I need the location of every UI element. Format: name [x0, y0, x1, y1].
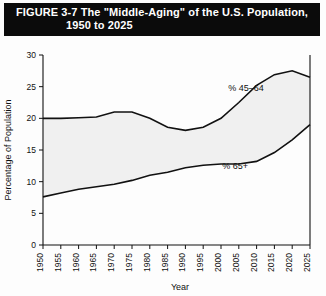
x-tick-label: 1950: [35, 253, 45, 272]
figure-title-banner: FIGURE 3-7 The "Middle-Aging" of the U.S…: [4, 3, 320, 36]
x-tick-label: 1985: [160, 253, 170, 272]
x-tick-group: 1950195519601965197019751980198519901995…: [35, 245, 312, 272]
x-tick-label: 1990: [177, 253, 187, 272]
figure-title-line-1: FIGURE 3-7 The "Middle-Aging" of the U.S…: [10, 6, 314, 19]
x-tick-label: 2005: [231, 253, 241, 272]
figure-title-line-2: 1950 to 2025: [10, 19, 314, 32]
y-tick-label: 15: [27, 145, 37, 155]
x-tick-label: 2010: [249, 253, 259, 272]
y-tick-label: 30: [27, 50, 37, 60]
x-tick-label: 2000: [213, 253, 223, 272]
x-tick-label: 2020: [284, 253, 294, 272]
y-tick-group: 051015202530: [27, 50, 43, 250]
area-band-45-64: [43, 71, 310, 197]
y-tick-label: 20: [27, 113, 37, 123]
y-tick-label: 25: [27, 82, 37, 92]
x-tick-label: 2025: [302, 253, 312, 272]
x-tick-label: 1955: [53, 253, 63, 272]
x-tick-label: 1970: [106, 253, 116, 272]
y-tick-label: 0: [31, 240, 36, 250]
x-axis-title: Year: [171, 282, 189, 292]
chart-plot-area: 1950195519601965197019751980198519901995…: [0, 40, 326, 296]
x-tick-label: 1965: [88, 253, 98, 272]
y-tick-label: 5: [31, 208, 36, 218]
x-tick-label: 1995: [195, 253, 205, 272]
x-tick-label: 1975: [124, 253, 134, 272]
area-fill-group: [43, 71, 310, 197]
x-tick-label: 1980: [142, 253, 152, 272]
y-axis-title: Percentage of Population: [3, 99, 13, 200]
series-label-45-64: % 45–64: [228, 83, 264, 93]
figure-container: FIGURE 3-7 The "Middle-Aging" of the U.S…: [0, 0, 326, 296]
population-area-chart: 1950195519601965197019751980198519901995…: [0, 40, 326, 296]
x-tick-label: 1960: [71, 253, 81, 272]
series-label-65-plus: % 65+: [222, 161, 248, 171]
x-tick-label: 2015: [266, 253, 276, 272]
y-tick-label: 10: [27, 177, 37, 187]
